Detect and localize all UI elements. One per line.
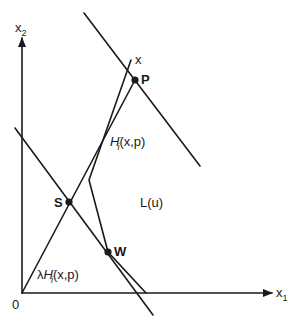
point-s-label: S xyxy=(54,195,63,210)
hyperplane-line-through-s-w xyxy=(15,128,153,315)
ray-label-lambda-h: λH-i(x,p) xyxy=(37,265,79,285)
x1-axis-label: x1 xyxy=(276,285,288,303)
region-l-u-label: L(u) xyxy=(140,195,163,210)
origin-label: 0 xyxy=(12,297,19,312)
diagram-svg: x2 x1 0 x P S W L(u) H-i(x,p) λH-i(x,p) xyxy=(0,0,297,330)
x2-axis-label: x2 xyxy=(15,20,27,38)
point-p-dot xyxy=(131,76,138,83)
point-w-dot xyxy=(104,248,111,255)
point-p-label: P xyxy=(141,72,150,87)
ray-label-h-upper: H-i(x,p) xyxy=(110,132,145,152)
diagram-canvas: x2 x1 0 x P S W L(u) H-i(x,p) λH-i(x,p) xyxy=(0,0,297,330)
point-w-label: W xyxy=(114,244,127,259)
ray-origin-to-p xyxy=(22,80,135,293)
point-s-dot xyxy=(65,198,72,205)
point-x-label: x xyxy=(135,52,142,67)
